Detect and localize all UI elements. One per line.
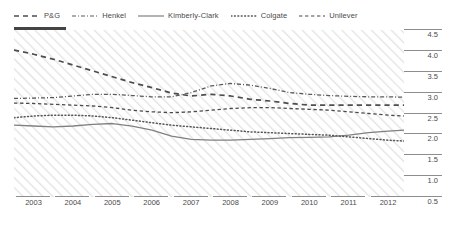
legend-label: Colgate (261, 12, 288, 20)
x-axis-tick-label: 2010 (290, 199, 329, 207)
chart-plot-area (14, 30, 404, 197)
x-axis-tick-rule (174, 196, 208, 197)
legend-label: Unilever (329, 12, 357, 20)
y-axis-tick-label: 3.5 (404, 73, 438, 81)
x-axis-tick-label: 2009 (250, 199, 289, 207)
x-axis-tick-label: 2005 (93, 199, 132, 207)
legend-item-png[interactable]: P&G (14, 12, 60, 20)
x-axis-tick-rule (95, 196, 129, 197)
legend-swatch-dotted-icon (231, 12, 257, 20)
legend-swatch-long-dash-icon (14, 12, 40, 20)
y-axis-tick: 3.0 (404, 92, 448, 108)
y-axis-tick: 4.0 (404, 50, 448, 66)
y-axis-tick: 4.5 (404, 29, 448, 45)
y-axis-tick-label: 2.5 (404, 115, 438, 123)
x-axis-tick-rule (134, 196, 168, 197)
y-axis-tick-label: 1.5 (404, 156, 438, 164)
legend-label: Kimberly-Clark (168, 12, 219, 20)
x-axis-tick-label: 2011 (329, 199, 368, 207)
legend-accent-bar (14, 27, 66, 30)
y-axis-tick: 1.0 (404, 175, 448, 191)
x-axis-tick: 2012 (369, 196, 408, 218)
x-axis-tick-label: 2012 (369, 199, 408, 207)
legend-item-kimberly-clark[interactable]: Kimberly-Clark (138, 12, 219, 20)
legend-item-colgate[interactable]: Colgate (231, 12, 288, 20)
chart-plot-svg (14, 30, 404, 197)
y-axis-tick-label: 4.5 (404, 31, 438, 39)
x-axis-tick: 2007 (172, 196, 211, 218)
x-axis-tick: 2006 (132, 196, 171, 218)
x-axis-tick: 2011 (329, 196, 368, 218)
y-axis-tick-label: 4.0 (404, 52, 438, 60)
x-axis-tick: 2004 (53, 196, 92, 218)
legend-swatch-dash-dot-icon (72, 12, 98, 20)
x-axis-tick-rule (331, 196, 365, 197)
x-axis-tick: 2009 (250, 196, 289, 218)
x-axis-tick-label: 2008 (211, 199, 250, 207)
y-axis-tick: 3.5 (404, 71, 448, 87)
legend-swatch-solid-icon (138, 12, 164, 20)
y-axis-tick: 2.5 (404, 113, 448, 129)
chart-legend: P&G Henkel Kimberly-Clark Colgate Unilev (14, 8, 358, 24)
x-axis: 2003200420052006200720082009201020112012 (14, 196, 404, 218)
legend-label: P&G (44, 12, 60, 20)
x-axis-tick-rule (371, 196, 405, 197)
x-axis-tick-label: 2003 (14, 199, 53, 207)
y-axis-tick-label: 0.5 (404, 198, 438, 206)
x-axis-tick-label: 2007 (172, 199, 211, 207)
x-axis-tick: 2005 (93, 196, 132, 218)
x-axis-tick-rule (292, 196, 326, 197)
x-axis-tick-label: 2004 (53, 199, 92, 207)
legend-label: Henkel (102, 12, 126, 20)
y-axis-tick-label: 1.0 (404, 177, 438, 185)
plot-hatch-background (14, 30, 404, 197)
x-axis-tick-rule (16, 196, 50, 197)
y-axis-tick-label: 2.0 (404, 135, 438, 143)
x-axis-tick: 2008 (211, 196, 250, 218)
y-axis-tick: 0.5 (404, 196, 448, 212)
y-axis-tick: 2.0 (404, 133, 448, 149)
y-axis-tick-label: 3.0 (404, 94, 438, 102)
legend-item-unilever[interactable]: Unilever (299, 12, 357, 20)
x-axis-tick-label: 2006 (132, 199, 171, 207)
x-axis-tick-rule (252, 196, 286, 197)
legend-item-henkel[interactable]: Henkel (72, 12, 126, 20)
x-axis-tick-rule (55, 196, 89, 197)
x-axis-tick: 2010 (290, 196, 329, 218)
chart-container: P&G Henkel Kimberly-Clark Colgate Unilev (0, 0, 450, 225)
x-axis-tick-rule (213, 196, 247, 197)
y-axis: 4.54.03.53.02.52.01.51.00.5 (404, 30, 448, 197)
y-axis-tick: 1.5 (404, 154, 448, 170)
x-axis-tick: 2003 (14, 196, 53, 218)
legend-swatch-dash-icon (299, 12, 325, 20)
